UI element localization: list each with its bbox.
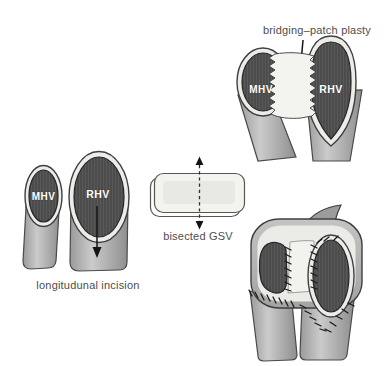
bisection-arrow-up	[196, 157, 204, 166]
surgical-diagram: MHV RHV longitudunal incision bisected G…	[0, 0, 384, 366]
bisection-arrow-down	[196, 221, 204, 230]
incision-figure: MHV RHV longitudunal incision	[23, 152, 140, 292]
patch-plasty-figure: bridging–patch plasty MHV RHV	[237, 24, 371, 161]
graft-caption: bisected GSV	[163, 230, 233, 242]
bridging-patch	[269, 53, 316, 119]
graft-figure: bisected GSV	[151, 157, 245, 243]
result-mhv-lumen	[259, 243, 287, 293]
result-rhv-lumen	[313, 240, 349, 312]
incision-mhv-label: MHV	[32, 191, 56, 202]
result-figure	[249, 205, 362, 361]
surgical-diagram-page: MHV RHV longitudunal incision bisected G…	[0, 0, 384, 366]
incision-caption: longitudunal incision	[36, 279, 139, 291]
plasty-mhv-label: MHV	[249, 84, 273, 95]
patch-plasty-title: bridging–patch plasty	[263, 24, 371, 36]
plasty-rhv-label: RHV	[319, 83, 343, 95]
incision-rhv-label: RHV	[86, 188, 110, 200]
